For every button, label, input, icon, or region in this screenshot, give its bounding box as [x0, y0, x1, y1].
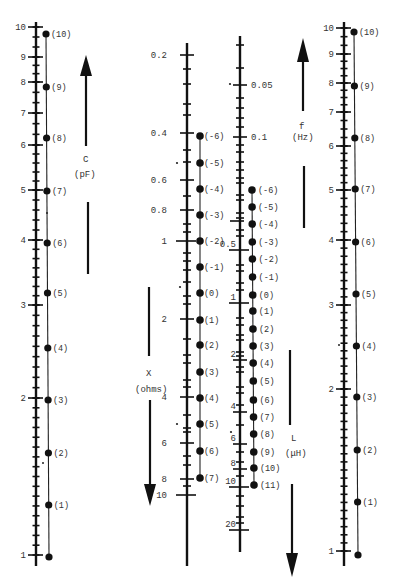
scale-point	[249, 291, 257, 299]
scale-point	[45, 449, 52, 456]
scale-point	[45, 553, 52, 560]
point-index-label: (1)	[54, 501, 69, 511]
scale-point	[250, 448, 258, 456]
point-index-label: (3)	[362, 393, 377, 403]
tick-label: 8	[162, 475, 167, 485]
scale-point	[196, 316, 204, 324]
scale-point	[249, 359, 257, 367]
scale-point	[353, 393, 360, 400]
inductance-scale: 0.050.10.5124681020(-6)(-5)(-4)(-3)(-2)(…	[220, 36, 281, 552]
c-name-label: C	[83, 155, 89, 165]
speck-dot	[176, 423, 178, 425]
l-name-label: L	[291, 434, 296, 444]
tick-label: 1	[231, 293, 236, 303]
point-index-label: (-5)	[204, 159, 224, 169]
point-index-label: (10)	[260, 464, 280, 474]
tick-label: 10	[225, 477, 236, 487]
scale-point	[249, 238, 257, 246]
point-index-label: (3)	[259, 342, 274, 352]
point-index-label: (1)	[259, 307, 274, 317]
c-right-scale: 10987654321(10)(9)(8)(7)(6)(5)(4)(3)(2)(…	[323, 22, 379, 566]
point-index-label: (-2)	[258, 255, 278, 265]
f-unit-label: (Hz)	[292, 133, 314, 143]
x-arrow-down-icon	[144, 400, 156, 506]
scale-point	[353, 342, 360, 349]
point-index-label: (9)	[359, 82, 374, 92]
point-index-label: (5)	[53, 289, 68, 299]
scale-point	[249, 377, 257, 385]
scale-point	[196, 211, 204, 219]
tick-label: 4	[21, 236, 26, 246]
f-arrow-up-icon	[297, 38, 309, 111]
reactance-scale: 0.20.40.60.81246810(-6)(-5)(-4)(-3)(-2)(…	[151, 43, 225, 566]
nomograph: 10987654321(10)(9)(8)(7)(6)(5)(4)(3)(2)(…	[0, 0, 395, 581]
scale-point	[196, 159, 204, 167]
point-index-label: (-5)	[258, 203, 278, 213]
point-index-label: (11)	[260, 481, 280, 491]
point-index-label: (4)	[259, 359, 274, 369]
point-index-label: (1)	[204, 316, 219, 326]
x-unit-label: (ohms)	[135, 385, 167, 395]
f-name-label: f	[299, 122, 304, 132]
scale-point	[44, 344, 51, 351]
scale-point	[250, 413, 258, 421]
scale-point	[249, 307, 257, 315]
scale-point	[196, 394, 204, 402]
point-index-label: (5)	[361, 290, 376, 300]
scale-point	[250, 396, 258, 404]
point-index-label: (7)	[360, 185, 375, 195]
point-index-label: (10)	[359, 28, 379, 38]
tick-label: 20	[225, 520, 236, 530]
tick-label: 1	[329, 547, 334, 557]
point-index-label: (5)	[204, 420, 219, 430]
point-index-label: (0)	[204, 289, 219, 299]
scale-point	[250, 464, 258, 472]
point-connector-line	[252, 190, 254, 485]
scale-point	[196, 368, 204, 376]
scale-point	[249, 255, 257, 263]
point-index-label: (2)	[259, 325, 274, 335]
point-index-label: (6)	[259, 396, 274, 406]
scale-point	[196, 185, 204, 193]
tick-label: 9	[21, 53, 26, 63]
point-index-label: (-6)	[258, 186, 278, 196]
point-index-label: (6)	[361, 238, 376, 248]
point-index-label: (2)	[204, 341, 219, 351]
point-index-label: (-4)	[258, 220, 278, 230]
tick-label: 6	[21, 141, 26, 151]
scale-point	[350, 28, 357, 35]
point-index-label: (2)	[53, 449, 68, 459]
scale-point	[44, 239, 51, 246]
tick-label: 0.5	[220, 240, 236, 250]
scale-point	[249, 325, 257, 333]
tick-label: 6	[162, 439, 167, 449]
point-index-label: (4)	[53, 344, 68, 354]
scale-point	[196, 132, 204, 140]
tick-label: 6	[329, 142, 334, 152]
tick-label: 3	[329, 301, 334, 311]
scale-point	[250, 481, 258, 489]
tick-label: 8	[329, 79, 334, 89]
scale-point	[248, 186, 256, 194]
scale-point	[250, 430, 258, 438]
tick-label: 0.1	[251, 133, 267, 143]
point-index-label: (-6)	[204, 132, 224, 142]
tick-label: 9	[329, 50, 334, 60]
point-index-label: (8)	[260, 430, 275, 440]
tick-label: 5	[329, 186, 334, 196]
scale-point	[354, 551, 361, 558]
scale-point	[249, 342, 257, 350]
point-index-label: (-4)	[204, 185, 224, 195]
tick-label: 2	[231, 350, 236, 360]
tick-label: 10	[156, 491, 167, 501]
speck-dot	[46, 212, 48, 214]
scale-point	[352, 185, 359, 192]
tick-label: 2	[162, 315, 167, 325]
tick-label: 1	[21, 551, 26, 561]
point-index-label: (2)	[362, 446, 377, 456]
scale-point	[352, 238, 359, 245]
point-index-label: (4)	[204, 394, 219, 404]
scale-point	[196, 341, 204, 349]
scale-point	[351, 82, 358, 89]
point-index-label: (-1)	[259, 273, 279, 283]
